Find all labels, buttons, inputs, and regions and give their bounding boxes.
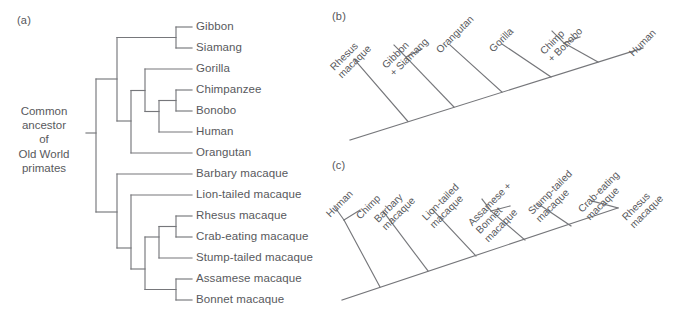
panel-a-letter: (a): [17, 14, 31, 26]
tip-label-stump-tailed-macaque: Stump-tailed macaque: [196, 252, 313, 264]
root-ancestor-label: Common ancestor of Old World primates: [2, 104, 86, 175]
tip-label-gibbon: Gibbon: [196, 21, 234, 33]
tip-label-rhesus-macaque: Rhesus macaque: [196, 210, 287, 222]
phylogenetic-figure: (a) Common ancestor of Old World primate…: [0, 0, 678, 318]
panel-c-letter: (c): [332, 159, 345, 171]
tip-label-siamang: Siamang: [196, 42, 242, 54]
tip-label-assamese-macaque: Assamese macaque: [196, 273, 302, 285]
tip-label-chimpanzee: Chimpanzee: [196, 84, 262, 96]
tip-label-crab-eating-macaque: Crab-eating macaque: [196, 231, 309, 243]
tip-label-bonnet-macaque: Bonnet macaque: [196, 294, 284, 306]
tip-label-barbary-macaque: Barbary macaque: [196, 168, 288, 180]
tip-label-lion-tailed-macaque: Lion-tailed macaque: [196, 189, 301, 201]
tip-label-bonobo: Bonobo: [196, 105, 236, 117]
panel-c-tree-lines: [330, 148, 678, 318]
branch-c-hominin-stem: [344, 220, 380, 287]
panel-b-tree-lines: [330, 0, 678, 152]
panel-a-rectangular-cladogram: (a) Common ancestor of Old World primate…: [0, 0, 330, 318]
tip-label-human: Human: [196, 126, 234, 138]
root-label-line-4: Old World: [2, 147, 86, 161]
root-label-line-3: of: [2, 132, 86, 146]
branch-b-hylobatid-stem: [406, 57, 454, 107]
panel-c-diagonal-cladogram: (c) Human Chimp: [330, 148, 678, 318]
tip-label-gorilla: Gorilla: [196, 63, 230, 75]
root-label-line-1: Common: [2, 104, 86, 118]
panel-b-letter: (b): [332, 10, 346, 22]
root-label-line-5: primates: [2, 161, 86, 175]
tip-label-orangutan: Orangutan: [196, 147, 251, 159]
root-label-line-2: ancestor: [2, 118, 86, 132]
panel-b-diagonal-cladogram: (b) Rhesus macaque Gibbon +: [330, 0, 678, 152]
